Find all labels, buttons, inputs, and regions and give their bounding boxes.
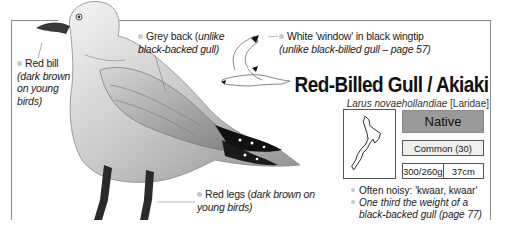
species-title: Red-Billed Gull / Akiaki xyxy=(295,72,489,98)
bullet-icon xyxy=(351,188,355,192)
note-item: Often noisy: 'kwaar, kwaar' xyxy=(351,185,491,197)
note-item: One third the weight of a black-backed g… xyxy=(351,197,491,220)
bullet-icon xyxy=(138,34,143,39)
notes-list: Often noisy: 'kwaar, kwaar' One third th… xyxy=(351,185,491,220)
legs-label: Red legs (dark brown on young birds) xyxy=(197,188,327,213)
bill-label: Red bill (dark brown on young birds) xyxy=(17,57,72,107)
wingtip-label: White 'window' in black wingtip (unlike … xyxy=(279,30,479,55)
length-value: 37cm xyxy=(443,164,483,178)
bullet-icon xyxy=(351,200,355,204)
distribution-map xyxy=(343,109,396,179)
measurements-box: 300/260g 37cm xyxy=(402,163,484,179)
back-label: Grey back (unlike black-backed gull) xyxy=(138,30,248,55)
bullet-icon xyxy=(279,34,284,39)
weight-value: 300/260g xyxy=(403,164,443,178)
bullet-icon xyxy=(197,192,202,197)
new-zealand-map-icon xyxy=(344,110,395,178)
bullet-icon xyxy=(17,61,22,66)
abundance-badge: Common (30) xyxy=(402,140,484,156)
species-latin-name: Larus novaehollandiae [Laridae] xyxy=(347,98,489,109)
status-badge: Native xyxy=(402,110,484,133)
